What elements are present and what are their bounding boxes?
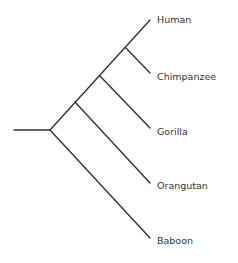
taxon-label-chimpanzee: Chimpanzee [157,72,216,82]
tree-branches [0,0,238,263]
taxon-label-orangutan: Orangutan [157,181,208,191]
branch-n1-to-chimpanzee [126,48,150,73]
phylogenetic-tree: Human Chimpanzee Gorilla Orangutan Baboo… [0,0,238,263]
taxon-label-baboon: Baboon [157,236,193,246]
taxon-label-human: Human [157,15,191,25]
branch-n3-to-orangutan [75,102,150,183]
branch-root-to-baboon [50,130,150,238]
branch-root-to-human [50,20,150,130]
taxon-label-gorilla: Gorilla [157,127,188,137]
branch-n2-to-gorilla [100,76,150,128]
